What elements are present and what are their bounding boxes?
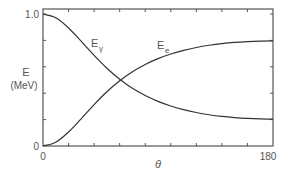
plot-frame — [43, 9, 273, 146]
series-label-e-e: E e — [157, 39, 170, 55]
chart: 1.0 0 0 180 E (MeV) θ E γ E e — [0, 0, 281, 180]
ticks — [43, 9, 273, 146]
y-tick-label-bottom: 0 — [33, 141, 39, 152]
series-label-e-gamma: E γ — [91, 37, 103, 53]
x-axis-label: θ — [155, 158, 161, 170]
y-axis-label: E — [22, 66, 29, 78]
series-line-e-e — [43, 41, 273, 146]
series-label-e-gamma-sub: γ — [99, 44, 103, 53]
x-tick-label-right: 180 — [260, 151, 277, 162]
series-label-e-e-sub: e — [165, 46, 170, 55]
x-tick-label-left: 0 — [40, 151, 46, 162]
series-lines — [43, 14, 273, 146]
y-tick-label-top: 1.0 — [25, 9, 39, 20]
series-label-e-e-main: E — [157, 39, 164, 51]
series-label-e-gamma-main: E — [91, 37, 98, 49]
series-line-e-gamma — [43, 14, 273, 119]
y-axis-unit: (MeV) — [10, 80, 37, 91]
